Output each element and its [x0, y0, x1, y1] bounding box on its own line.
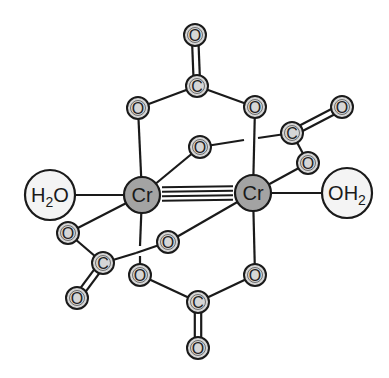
atom-o-ll: O	[66, 287, 88, 309]
atom-label: O	[62, 225, 74, 242]
atom-label: C	[97, 255, 109, 272]
quadruple-bond-line	[162, 195, 233, 196]
quadruple-bond-line	[162, 186, 233, 187]
atom-label: O	[302, 155, 314, 172]
atom-o-mid-low: O	[157, 231, 179, 253]
atom-label: O	[194, 139, 206, 156]
atom-label: O	[134, 267, 146, 284]
atom-o-bottom: O	[187, 337, 209, 359]
atom-o-bl: O	[129, 264, 151, 286]
atom-o-ur: O	[331, 96, 353, 118]
atom-cr1: Cr	[124, 177, 160, 213]
atom-o-right-low: O	[297, 152, 319, 174]
atom-label: O	[336, 99, 348, 116]
atom-label: C	[192, 294, 204, 311]
molecule-diagram: OCOOOCOOCrCrH2OOH2OOCOOOCO	[0, 0, 389, 378]
atom-o-left: O	[57, 222, 79, 244]
atom-oh2-right: OH2	[322, 168, 372, 218]
atom-label: O	[249, 267, 261, 284]
atom-cr2: Cr	[235, 175, 271, 211]
atom-o-top: O	[184, 24, 206, 46]
atom-label: Cr	[131, 184, 152, 206]
quadruple-bond-line	[162, 191, 233, 192]
atom-c-top: C	[186, 75, 208, 97]
quadruple-bond-line	[162, 200, 233, 201]
atom-label: O	[132, 100, 144, 117]
atom-h2o-left: H2O	[25, 170, 75, 220]
atom-o-br: O	[244, 264, 266, 286]
atom-label: C	[191, 78, 203, 95]
atom-c-left: C	[92, 252, 114, 274]
atom-label: O	[192, 340, 204, 357]
atom-label: Cr	[242, 182, 263, 204]
atom-o-mid-up: O	[189, 136, 211, 158]
atom-c-right: C	[281, 122, 303, 144]
atom-c-bottom: C	[187, 291, 209, 313]
atom-label: O	[162, 234, 174, 251]
structure-canvas: OCOOOCOOCrCrH2OOH2OOCOOOCO	[0, 0, 389, 378]
atom-label: O	[189, 27, 201, 44]
atom-o-tr: O	[244, 96, 266, 118]
atom-label: O	[71, 290, 83, 307]
atom-label: O	[249, 99, 261, 116]
atom-o-tl: O	[127, 97, 149, 119]
atom-label: C	[286, 125, 298, 142]
